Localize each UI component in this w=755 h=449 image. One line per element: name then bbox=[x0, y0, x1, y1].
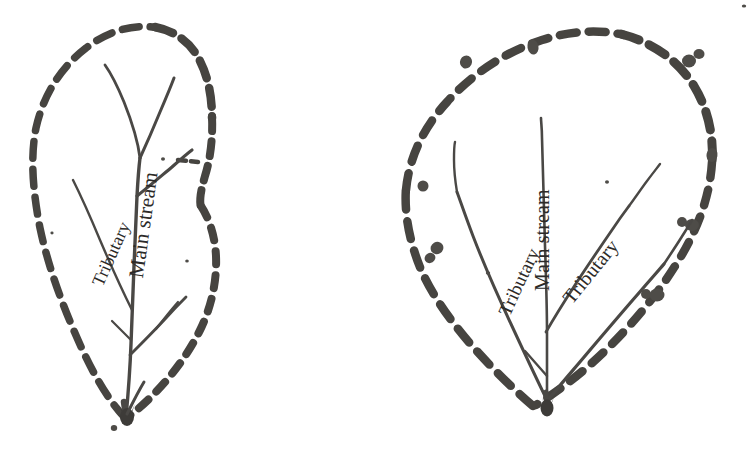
left-ink-specks bbox=[50, 157, 188, 431]
right-stream-network bbox=[454, 118, 692, 417]
right-ink-specks bbox=[486, 4, 746, 274]
right-basin-divide bbox=[406, 32, 719, 406]
right-main-stream-label: Main stream bbox=[531, 189, 554, 291]
drainage-basin-figure: Main stream Tributary Main stream Tribut… bbox=[0, 0, 755, 449]
